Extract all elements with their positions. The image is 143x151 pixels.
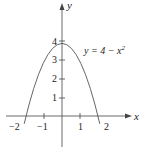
y-tick-label-2: 2 [52, 73, 57, 84]
x-axis-label: x [133, 110, 139, 122]
x-axis-arrow-icon [125, 114, 132, 119]
y-tick-label-4: 4 [52, 36, 57, 47]
parabola-chart: x y −2 −1 1 2 1 2 3 4 y = 4 − x2 [0, 0, 143, 151]
x-tick-label-2: 2 [104, 121, 109, 132]
x-tick-label-neg2: −2 [9, 121, 20, 132]
y-axis-arrow-icon [60, 3, 65, 10]
y-tick-label-3: 3 [52, 54, 57, 65]
x-tick-label-1: 1 [78, 121, 83, 132]
curve-equation-label: y = 4 − x2 [83, 44, 125, 56]
y-tick-label-1: 1 [52, 92, 57, 103]
x-tick-label-neg1: −1 [37, 121, 48, 132]
y-axis-label: y [66, 0, 72, 11]
